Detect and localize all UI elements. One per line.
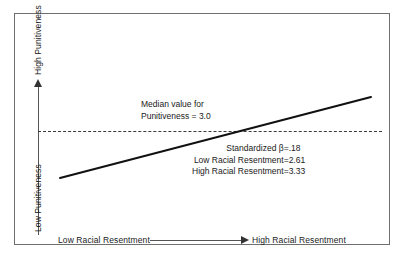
y-axis-up-arrow-icon xyxy=(34,79,42,87)
x-axis-line xyxy=(150,240,242,241)
x-axis-low-label: Low Racial Resentment xyxy=(58,235,150,245)
stat-value-high-resentment: 3.33 xyxy=(289,166,306,178)
stat-equals-beta: = xyxy=(284,143,289,155)
statistics-annotation: Standardized β = .18 Low Racial Resentme… xyxy=(192,143,305,178)
figure-frame xyxy=(14,13,390,245)
figure-container: High Punitiveness Low Punitiveness Media… xyxy=(0,0,403,258)
stat-equals-high-resentment: = xyxy=(284,166,289,178)
stat-label-high-resentment: High Racial Resentment xyxy=(192,166,284,178)
y-axis-low-label: Low Punitiveness xyxy=(33,164,43,232)
table-row: Low Racial Resentment = 2.61 xyxy=(192,155,305,167)
stat-value-low-resentment: 2.61 xyxy=(289,155,306,167)
stat-equals-low-resentment: = xyxy=(284,155,289,167)
median-annotation: Median value for Punitiveness = 3.0 xyxy=(141,99,211,122)
statistics-table: Standardized β = .18 Low Racial Resentme… xyxy=(192,143,305,178)
median-annotation-line2: Punitiveness = 3.0 xyxy=(141,111,211,123)
x-axis-right-arrow-icon xyxy=(241,236,249,244)
stat-label-low-resentment: Low Racial Resentment xyxy=(192,155,284,167)
table-row: Standardized β = .18 xyxy=(192,143,305,155)
y-axis-high-label: High Punitiveness xyxy=(33,5,43,75)
median-annotation-line1: Median value for xyxy=(141,99,211,111)
table-row: High Racial Resentment = 3.33 xyxy=(192,166,305,178)
stat-value-beta: .18 xyxy=(289,143,306,155)
median-reference-line xyxy=(38,131,382,132)
x-axis-high-label: High Racial Resentment xyxy=(252,235,346,245)
stat-label-beta: Standardized β xyxy=(192,143,284,155)
